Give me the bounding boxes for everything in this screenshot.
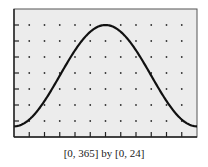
window-caption: [0, 365] by [0, 24]	[0, 147, 208, 159]
chart-plot	[0, 0, 208, 145]
